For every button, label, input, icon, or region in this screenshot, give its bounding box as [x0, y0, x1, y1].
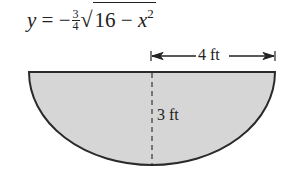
depth-label: 3 ft: [157, 106, 179, 124]
semi-ellipse-diagram: [0, 0, 284, 184]
width-label: 4 ft: [198, 46, 220, 64]
